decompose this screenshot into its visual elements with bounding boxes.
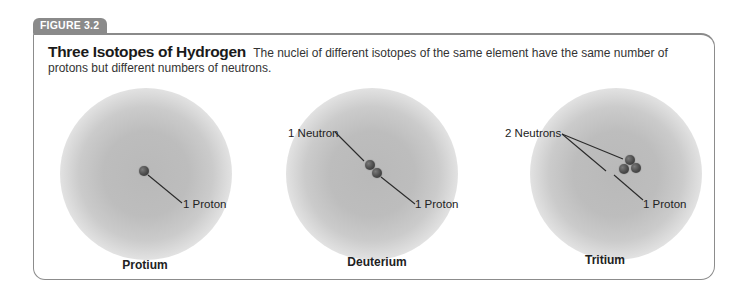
tritium-proton-label: 1 Proton [643, 198, 686, 210]
tritium-neutron-2 [619, 164, 629, 174]
protium-name: Protium [122, 258, 167, 272]
protium-proton-label: 1 Proton [183, 198, 226, 210]
protium-proton [139, 166, 149, 176]
tritium-name: Tritium [585, 253, 625, 267]
deuterium-neutron-label: 1 Neutron [288, 127, 339, 139]
deuterium-proton-label: 1 Proton [415, 198, 458, 210]
tritium-proton [631, 163, 641, 173]
tritium-neutron-label: 2 Neutrons [505, 127, 561, 139]
leader-lines [0, 0, 751, 287]
deuterium-name: Deuterium [347, 255, 406, 269]
deuterium-proton [372, 168, 382, 178]
